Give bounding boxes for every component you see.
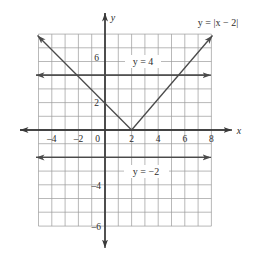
coordinate-plane-svg: –4 –2 0 2 4 6 8 6 2 –4 –6 x y y = 4 y = … xyxy=(0,0,262,264)
x-tick-label: –2 xyxy=(73,134,84,144)
y-tick-label: 6 xyxy=(94,53,99,63)
label-equation-group: y = |x − 2| xyxy=(182,14,254,28)
x-tick-label: –4 xyxy=(46,134,57,144)
x-tick-label: 4 xyxy=(156,134,161,144)
x-tick-label: 0 xyxy=(95,134,100,144)
x-tick-label: 2 xyxy=(129,134,134,144)
x-axis-name: x xyxy=(236,125,242,136)
label-absolute-value-equation: y = |x − 2| xyxy=(198,17,238,28)
label-y-equals-minus-2-group: y = −2 xyxy=(124,165,169,178)
graph-figure: –4 –2 0 2 4 6 8 6 2 –4 –6 x y y = 4 y = … xyxy=(0,0,262,264)
y-axis-name: y xyxy=(110,12,116,23)
label-y-equals-minus-2: y = −2 xyxy=(133,166,159,177)
label-y-equals-4: y = 4 xyxy=(133,56,154,67)
label-y-equals-4-group: y = 4 xyxy=(125,55,161,68)
y-tick-label: 2 xyxy=(94,98,99,108)
y-tick-label: –6 xyxy=(91,222,102,232)
figure-background xyxy=(0,0,262,264)
x-tick-label: 6 xyxy=(182,134,187,144)
x-tick-label: 8 xyxy=(209,134,214,144)
y-tick-label: –4 xyxy=(91,181,102,191)
